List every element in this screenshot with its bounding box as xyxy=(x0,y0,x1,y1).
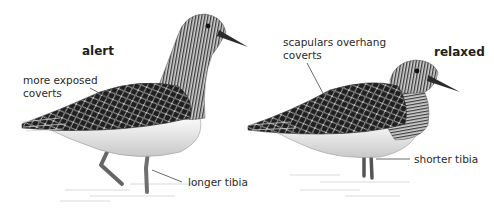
title-alert: alert xyxy=(82,44,114,58)
label-more-exposed-coverts: more exposed coverts xyxy=(23,74,98,100)
leader-line-scapulars-overhang xyxy=(307,63,325,97)
water-reflection xyxy=(60,184,200,201)
label-line: more exposed xyxy=(23,74,98,87)
label-line: coverts xyxy=(283,49,386,62)
label-scapulars-overhang-coverts: scapulars overhang coverts xyxy=(283,36,386,62)
water-reflection xyxy=(290,175,410,196)
label-line: scapulars overhang xyxy=(283,36,386,49)
label-shorter-tibia: shorter tibia xyxy=(414,153,478,166)
label-longer-tibia: longer tibia xyxy=(188,176,248,189)
label-line: coverts xyxy=(23,87,98,100)
title-relaxed: relaxed xyxy=(434,45,485,59)
leader-line-longer-tibia xyxy=(152,170,182,182)
alert-bird-illustration xyxy=(22,14,248,201)
relaxed-bird-illustration xyxy=(248,60,460,196)
